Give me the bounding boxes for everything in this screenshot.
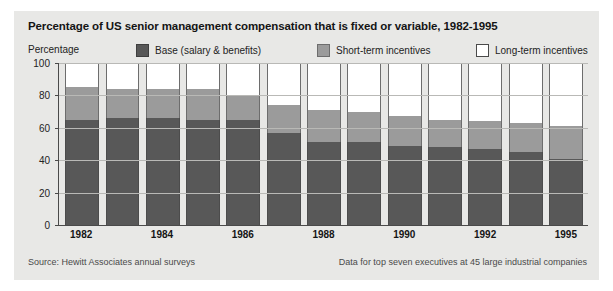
legend-label-long-term: Long-term incentives bbox=[495, 45, 588, 56]
bar-segment-long bbox=[428, 63, 462, 120]
y-tick-mark bbox=[55, 95, 59, 96]
x-label-slot bbox=[185, 229, 219, 243]
bar-segment-long bbox=[226, 63, 260, 95]
x-label-slot: 1986 bbox=[226, 229, 260, 243]
bar-segment-long bbox=[347, 63, 381, 112]
y-tick-mark bbox=[55, 160, 59, 161]
x-label-slot: 1984 bbox=[145, 229, 179, 243]
gridline bbox=[59, 95, 588, 96]
x-label-slot bbox=[508, 229, 542, 243]
bar-segment-base bbox=[428, 147, 462, 225]
x-tick-label: 1995 bbox=[555, 229, 577, 240]
x-label-slot bbox=[428, 229, 462, 243]
bar-segment-short bbox=[146, 89, 180, 118]
bar-column[interactable] bbox=[226, 63, 260, 225]
chart-legend: Percentage Base (salary & benefits) Shor… bbox=[28, 43, 588, 58]
y-tick-label: 60 bbox=[39, 122, 50, 133]
bar-segment-base bbox=[146, 118, 180, 225]
bar-segment-long bbox=[468, 63, 502, 121]
legend-item-short-term: Short-term incentives bbox=[317, 43, 430, 57]
y-axis-title: Percentage bbox=[28, 44, 79, 55]
bar-column[interactable] bbox=[186, 63, 220, 225]
bar-column[interactable] bbox=[65, 63, 99, 225]
bar-column[interactable] bbox=[509, 63, 543, 225]
bar-segment-short bbox=[106, 89, 140, 118]
bar-segment-long bbox=[146, 63, 180, 89]
y-tick-label: 40 bbox=[39, 155, 50, 166]
bar-segment-base bbox=[509, 152, 543, 225]
legend-swatch-long-term-icon bbox=[476, 44, 489, 57]
chart-title: Percentage of US senior management compe… bbox=[28, 20, 498, 32]
gridline bbox=[59, 128, 588, 129]
footer-source: Source: Hewitt Associates annual surveys bbox=[28, 257, 195, 267]
x-tick-label: 1990 bbox=[393, 229, 415, 240]
bar-segment-short bbox=[65, 87, 99, 119]
plot-canvas bbox=[58, 63, 588, 226]
legend-label-short-term: Short-term incentives bbox=[336, 45, 430, 56]
y-tick-label: 0 bbox=[44, 220, 50, 231]
bar-segment-short bbox=[428, 120, 462, 148]
bar-column[interactable] bbox=[388, 63, 422, 225]
x-label-slot: 1988 bbox=[307, 229, 341, 243]
bar-segment-long bbox=[65, 63, 99, 87]
y-tick-label: 100 bbox=[33, 58, 50, 69]
x-label-slot bbox=[105, 229, 139, 243]
bar-segment-short bbox=[388, 116, 422, 145]
x-label-slot bbox=[266, 229, 300, 243]
bar-segment-base bbox=[106, 118, 140, 225]
y-tick-mark bbox=[55, 225, 59, 226]
legend-item-base: Base (salary & benefits) bbox=[136, 43, 261, 57]
plot-area: 020406080100 198219841986198819901992199… bbox=[28, 63, 588, 245]
bar-segment-short bbox=[307, 110, 341, 142]
bar-column[interactable] bbox=[549, 63, 583, 225]
y-tick-mark bbox=[55, 63, 59, 64]
bar-segment-base bbox=[65, 120, 99, 225]
x-tick-label: 1984 bbox=[151, 229, 173, 240]
bar-segment-base bbox=[226, 120, 260, 225]
bar-segment-base bbox=[307, 142, 341, 225]
bar-column[interactable] bbox=[106, 63, 140, 225]
bar-segment-long bbox=[307, 63, 341, 110]
bar-segment-long bbox=[267, 63, 301, 105]
bar-segment-short bbox=[186, 89, 220, 120]
gridline bbox=[59, 63, 588, 64]
x-label-slot bbox=[347, 229, 381, 243]
bar-column[interactable] bbox=[347, 63, 381, 225]
bar-segment-long bbox=[186, 63, 220, 89]
bar-segment-base bbox=[388, 146, 422, 225]
bar-segment-long bbox=[106, 63, 140, 89]
bar-segment-short bbox=[468, 121, 502, 149]
bar-group bbox=[59, 63, 588, 225]
x-label-slot: 1982 bbox=[64, 229, 98, 243]
x-axis-labels: 1982198419861988199019921995 bbox=[58, 229, 588, 243]
bar-segment-long bbox=[509, 63, 543, 123]
legend-swatch-base-icon bbox=[136, 44, 149, 57]
bar-segment-short bbox=[549, 126, 583, 158]
gridline bbox=[59, 160, 588, 161]
x-label-slot: 1992 bbox=[468, 229, 502, 243]
y-tick-label: 80 bbox=[39, 90, 50, 101]
legend-label-base: Base (salary & benefits) bbox=[155, 45, 261, 56]
chart-footer: Source: Hewitt Associates annual surveys… bbox=[28, 257, 587, 270]
bar-segment-long bbox=[388, 63, 422, 116]
y-tick-label: 20 bbox=[39, 187, 50, 198]
bar-segment-short bbox=[226, 95, 260, 119]
footer-note: Data for top seven executives at 45 larg… bbox=[339, 257, 587, 267]
bar-column[interactable] bbox=[267, 63, 301, 225]
x-label-slot: 1990 bbox=[387, 229, 421, 243]
x-tick-label: 1982 bbox=[70, 229, 92, 240]
x-tick-label: 1986 bbox=[232, 229, 254, 240]
legend-swatch-short-term-icon bbox=[317, 44, 330, 57]
y-tick-mark bbox=[55, 193, 59, 194]
x-tick-label: 1992 bbox=[474, 229, 496, 240]
bar-column[interactable] bbox=[307, 63, 341, 225]
bar-column[interactable] bbox=[146, 63, 180, 225]
x-label-slot: 1995 bbox=[549, 229, 583, 243]
legend-item-long-term: Long-term incentives bbox=[476, 43, 588, 57]
gridline bbox=[59, 193, 588, 194]
bar-column[interactable] bbox=[468, 63, 502, 225]
bar-column[interactable] bbox=[428, 63, 462, 225]
bar-segment-base bbox=[347, 142, 381, 225]
y-tick-mark bbox=[55, 128, 59, 129]
x-tick-label: 1988 bbox=[312, 229, 334, 240]
